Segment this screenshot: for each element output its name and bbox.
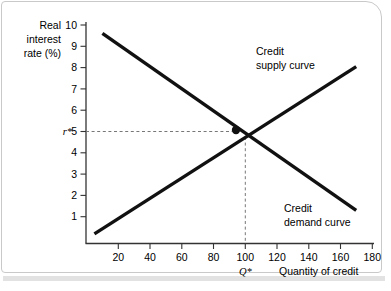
y-tick-label-10: 10: [65, 19, 77, 31]
y-tick-label-6: 6: [71, 104, 77, 116]
y-tick-label-4: 4: [71, 146, 77, 158]
supply-label-line-2: supply curve: [256, 59, 315, 71]
x-tick-label-180: 180: [364, 251, 382, 263]
y-tick-label-7: 7: [71, 83, 77, 95]
curves: [94, 33, 356, 234]
credit-demand-curve-line: [102, 33, 356, 210]
x-tick-label-20: 20: [112, 251, 124, 263]
credit-supply-curve-line: [94, 67, 356, 234]
demand-label-line-1: Credit: [284, 202, 312, 214]
y-tick-label-3: 3: [71, 168, 77, 180]
equilibrium-rate-label: r*: [63, 126, 73, 137]
x-tick-label-140: 140: [300, 251, 318, 263]
demand-label-line-2: demand curve: [284, 216, 351, 228]
figure-card: 10 9 8 7 6 5 4 3 2 1 Real interest rate …: [0, 0, 391, 291]
x-tick-label-40: 40: [144, 251, 156, 263]
x-tick-label-60: 60: [176, 251, 188, 263]
y-axis-ticks: [81, 25, 87, 217]
x-tick-label-100: 100: [237, 251, 255, 263]
credit-demand-curve-label: Credit demand curve: [284, 202, 351, 228]
y-tick-label-1: 1: [71, 210, 77, 222]
y-axis-tick-labels: 10 9 8 7 6 5 4 3 2 1: [65, 19, 77, 223]
credit-market-chart: 10 9 8 7 6 5 4 3 2 1 Real interest rate …: [0, 0, 391, 291]
y-tick-label-8: 8: [71, 61, 77, 73]
supply-label-line-1: Credit: [256, 45, 284, 57]
y-tick-label-5: 5: [71, 125, 77, 137]
y-axis-title-line-3: rate (%): [24, 47, 61, 59]
x-tick-label-160: 160: [332, 251, 350, 263]
equilibrium-quantity-label: Q*: [239, 266, 253, 277]
x-axis-tick-labels: 20 40 60 80 100 120 140 160 180: [112, 251, 381, 263]
x-tick-label-80: 80: [208, 251, 220, 263]
y-axis-title: Real interest rate (%): [24, 19, 61, 59]
x-tick-label-120: 120: [268, 251, 286, 263]
y-axis-title-line-1: Real: [39, 19, 61, 31]
equilibrium-point-marker: [232, 126, 240, 134]
x-axis-ticks: [118, 244, 372, 250]
x-axis-title: Quantity of credit: [279, 265, 358, 277]
y-tick-label-2: 2: [71, 189, 77, 201]
y-tick-label-9: 9: [71, 40, 77, 52]
y-axis-title-line-2: interest: [27, 33, 62, 45]
credit-supply-curve-label: Credit supply curve: [256, 45, 315, 71]
